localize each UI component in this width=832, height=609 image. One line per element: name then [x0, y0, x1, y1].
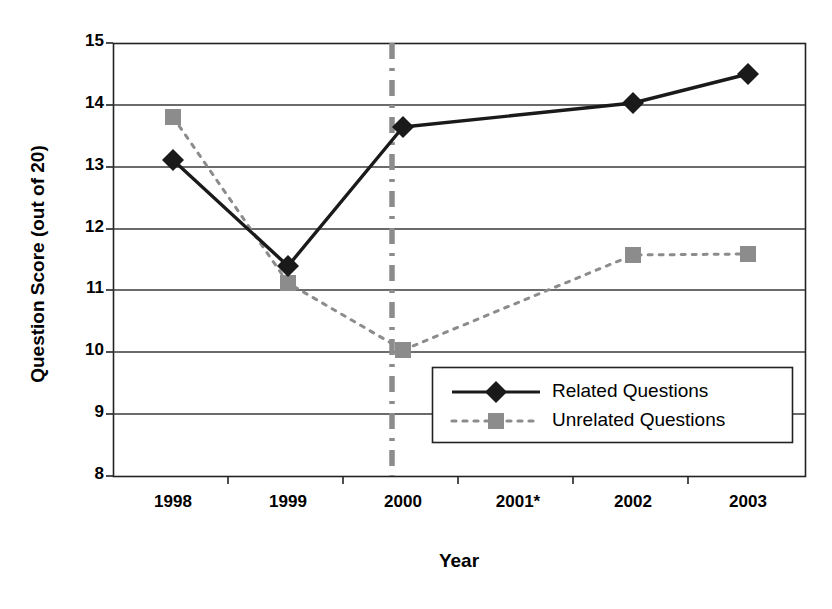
data-point-marker: [737, 63, 759, 85]
legend-label-related-questions: Related Questions: [552, 380, 708, 402]
line-chart: Question Score (out of 20) Year 15 14 13…: [0, 0, 832, 609]
data-point-marker: [395, 342, 411, 358]
plot-area: [0, 0, 832, 609]
legend-label-unrelated-questions: Unrelated Questions: [552, 409, 725, 431]
data-point-marker: [740, 246, 756, 262]
data-point-marker: [622, 92, 644, 114]
data-point-marker: [280, 275, 296, 291]
data-point-marker: [625, 247, 641, 263]
y-axis-ticks: [106, 43, 113, 476]
legend-box: [433, 368, 793, 443]
data-point-marker: [165, 109, 181, 125]
series-related-questions: [162, 63, 759, 277]
